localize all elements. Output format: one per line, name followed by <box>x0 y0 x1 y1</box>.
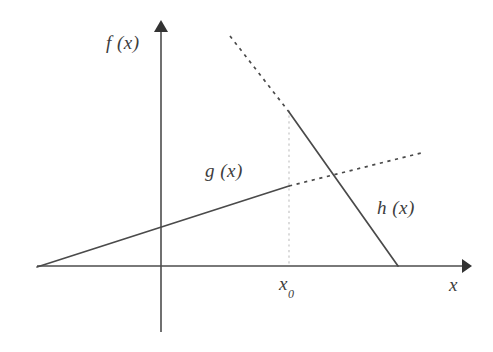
curve-g-dashed-extension <box>289 152 425 186</box>
x-axis-arrowhead-icon <box>462 259 472 273</box>
x-zero-base: x <box>279 273 288 294</box>
function-plot-figure: f (x) g (x) h (x) x x0 <box>0 0 493 352</box>
curve-g-label: g (x) <box>205 161 243 180</box>
y-axis-arrowhead-icon <box>154 20 168 32</box>
curve-h-dashed-extension <box>230 36 289 112</box>
plot-canvas <box>0 0 493 352</box>
y-axis-label: f (x) <box>106 33 140 52</box>
x-zero-subscript: 0 <box>288 287 295 301</box>
curve-h-label: h (x) <box>377 198 415 217</box>
curve-h-solid <box>289 112 398 266</box>
x-zero-tick-label: x0 <box>279 274 294 297</box>
x-axis-label: x <box>449 275 458 294</box>
curve-g-solid <box>37 186 289 267</box>
